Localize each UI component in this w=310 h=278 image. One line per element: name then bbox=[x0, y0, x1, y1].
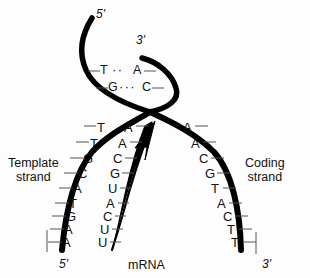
coding-base-4: T bbox=[211, 182, 219, 197]
template-base-1: T bbox=[90, 137, 98, 152]
transcription-diagram: T ·· A G ··· C T T G C A T G A A A A C G… bbox=[0, 0, 310, 278]
template-base-2: G bbox=[83, 152, 93, 167]
template-strand-label-line1: Template bbox=[8, 156, 59, 170]
coding-base-8: T bbox=[231, 236, 239, 251]
template-base-0: T bbox=[97, 121, 105, 136]
helix-pair-1-left-base: G bbox=[108, 80, 118, 94]
coding-strand-label-line2: strand bbox=[247, 170, 282, 184]
helix-pair-1-bond: ··· bbox=[119, 80, 136, 95]
template-base-4: A bbox=[73, 182, 82, 197]
mrna-base-4: U bbox=[108, 182, 118, 197]
mrna-base-0: A bbox=[124, 121, 133, 136]
coding-strand-label-line1: Coding bbox=[245, 156, 285, 170]
top-right-3prime-label: 3' bbox=[136, 34, 145, 47]
bottom-left-5prime-label: 5' bbox=[59, 258, 68, 271]
mrna-base-1: A bbox=[118, 137, 127, 152]
mrna-label: mRNA bbox=[128, 258, 165, 272]
helix-pair-0-bond: ·· bbox=[112, 63, 123, 78]
template-base-8: A bbox=[62, 236, 71, 251]
mrna-base-3: G bbox=[110, 167, 120, 182]
helix-pair-0-right-base: A bbox=[133, 63, 141, 77]
helix-pair-0-left-base: T bbox=[100, 63, 108, 77]
template-base-3: C bbox=[78, 167, 88, 182]
coding-base-3: G bbox=[205, 167, 215, 182]
dna-strand-artwork bbox=[0, 0, 310, 278]
helix-pair-1-right-base: C bbox=[142, 80, 151, 94]
bottom-right-3prime-label: 3' bbox=[262, 258, 271, 271]
template-strand-label-line2: strand bbox=[16, 170, 51, 184]
mrna-base-2: C bbox=[113, 152, 123, 167]
coding-strand-label: Coding strand bbox=[245, 156, 285, 184]
coding-base-2: C bbox=[199, 152, 209, 167]
mrna-base-8: U bbox=[98, 236, 108, 251]
top-left-5prime-label: 5' bbox=[96, 8, 105, 21]
coding-base-0: A bbox=[183, 121, 192, 136]
coding-base-1: A bbox=[191, 137, 200, 152]
template-strand-label: Template strand bbox=[8, 156, 59, 184]
